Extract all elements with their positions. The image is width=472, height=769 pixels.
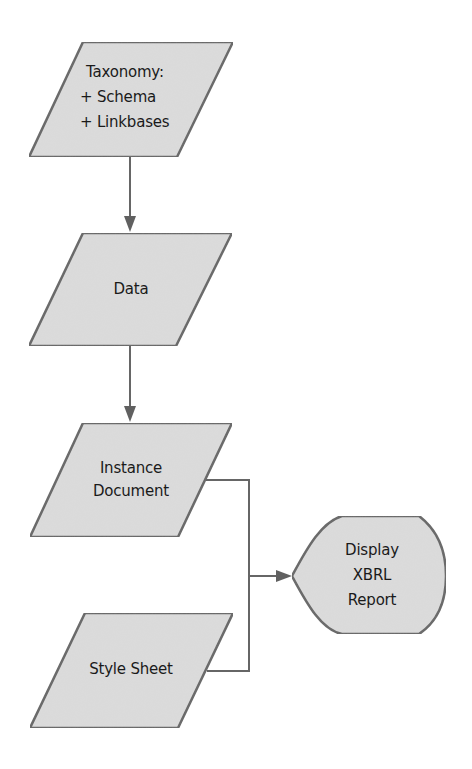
node-display-xbrl-report xyxy=(292,516,446,634)
node-data xyxy=(29,233,232,346)
arrow-right-icon xyxy=(276,570,292,582)
arrow-down-icon xyxy=(124,216,136,232)
arrow-down-icon xyxy=(124,406,136,422)
flowchart-diagram xyxy=(0,0,472,769)
node-style-sheet xyxy=(30,613,233,728)
connector-taxonomy-to-data xyxy=(124,157,136,232)
node-taxonomy xyxy=(29,42,233,157)
node-instance-document xyxy=(30,423,232,537)
connector-data-to-instance xyxy=(124,346,136,422)
